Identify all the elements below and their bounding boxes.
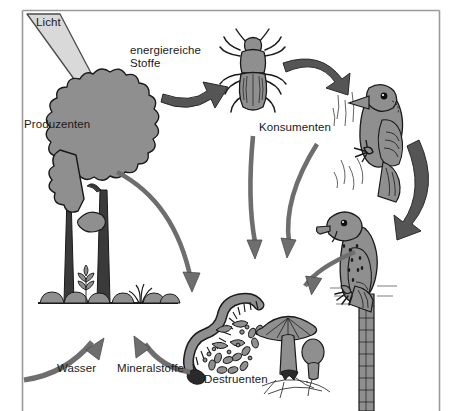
label-mineralstoffe: Mineralstoffe — [117, 362, 184, 375]
label-licht: Licht — [36, 16, 61, 29]
label-energiereiche: energiereiche — [130, 44, 201, 57]
label-wasser: Wasser — [57, 362, 96, 375]
diagram-canvas — [0, 0, 451, 411]
ecosystem-energy-flow-diagram: Licht Produzenten energiereiche Stoffe K… — [0, 0, 451, 411]
label-destruenten: Destruenten — [204, 373, 268, 386]
label-stoffe: Stoffe — [130, 57, 160, 70]
label-produzenten: Produzenten — [24, 118, 90, 131]
label-konsumenten: Konsumenten — [259, 121, 331, 134]
